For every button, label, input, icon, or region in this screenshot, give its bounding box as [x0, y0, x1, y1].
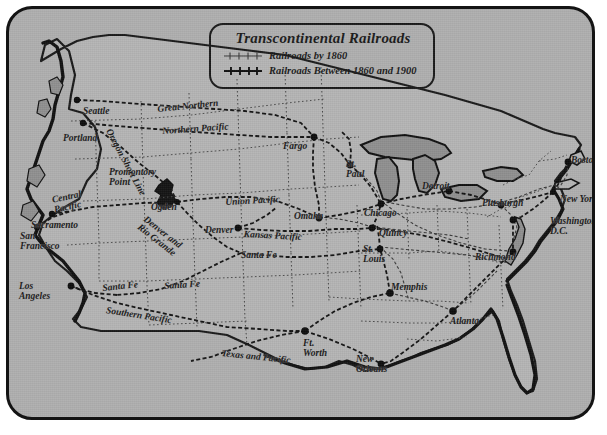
- city-label-quincy: Quincy: [379, 228, 408, 238]
- city-label-portland: Portland: [63, 133, 97, 143]
- legend-entry-1860: Railroads by 1860: [223, 49, 423, 63]
- city-label-omaha: Omaha: [294, 211, 323, 221]
- city-label-st-paul: St. Paul: [346, 159, 364, 179]
- city-label-new-orleans: New Orleans: [356, 354, 387, 374]
- legend-label-1860: Railroads by 1860: [269, 50, 347, 62]
- legend: Transcontinental Railroads Railroads by …: [209, 23, 435, 89]
- city-label-seattle: Seattle: [83, 106, 109, 116]
- map-frame: Transcontinental Railroads Railroads by …: [6, 6, 595, 420]
- legend-swatch-1860-icon: [223, 51, 263, 61]
- legend-title: Transcontinental Railroads: [223, 29, 423, 47]
- city-label-new-york: New York: [560, 194, 595, 204]
- city-label-atlanta: Atlanta: [450, 316, 479, 326]
- city-label-richmond: Richmond: [475, 252, 516, 262]
- transcontinental-railroads-map: Transcontinental Railroads Railroads by …: [0, 0, 607, 435]
- city-label-denver: Denver: [205, 225, 234, 235]
- city-label-memphis: Memphis: [391, 282, 427, 292]
- city-label-detroit: Detroit: [422, 181, 449, 191]
- railline-label-santa-fe: Santa Fe: [241, 250, 277, 260]
- city-label-ft-worth: Ft. Worth: [303, 338, 327, 358]
- city-label-fargo: Fargo: [283, 141, 307, 151]
- city-label-chicago: Chicago: [364, 208, 397, 218]
- city-label-san-francisco: San Francisco: [20, 231, 60, 251]
- legend-label-1860-1900: Railroads Between 1860 and 1900: [269, 65, 417, 77]
- city-label-st-louis: St. Louis: [363, 244, 385, 264]
- legend-entry-1860-1900: Railroads Between 1860 and 1900: [223, 64, 423, 78]
- legend-swatch-1860-1900-icon: [223, 66, 263, 76]
- city-label-pittsburgh: Pittsburgh: [482, 198, 523, 208]
- city-label-ogden: Ogden: [151, 202, 177, 212]
- city-label-boston: Boston: [571, 155, 595, 165]
- city-label-sacramento: Sacramento: [31, 220, 78, 230]
- city-label-washington-d-c: Washington, D.C.: [550, 216, 595, 236]
- city-label-los-angeles: Los Angeles: [19, 281, 50, 301]
